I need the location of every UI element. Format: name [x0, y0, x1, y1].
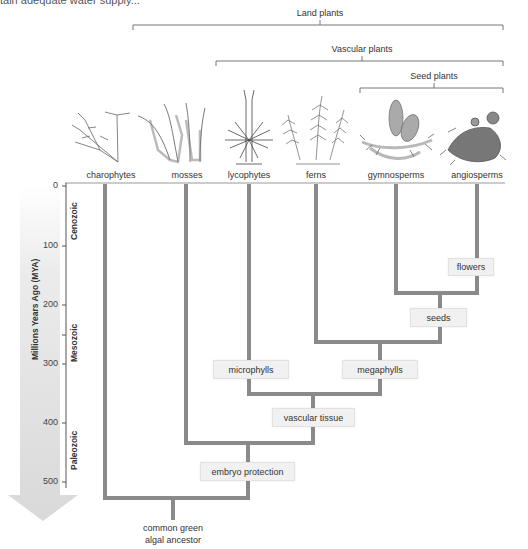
trait-box-megaphylls: megaphylls — [342, 360, 418, 379]
trait-label-flowers: flowers — [457, 262, 486, 272]
taxon-label-charophytes: charophytes — [86, 170, 135, 180]
taxon-label-lycophytes: lycophytes — [228, 170, 271, 180]
ancestor-label-line1: common green — [143, 522, 203, 534]
taxon-label-ferns: ferns — [306, 170, 326, 180]
trait-box-seeds: seeds — [410, 308, 467, 327]
charophyte-illustration — [72, 112, 130, 162]
trait-label-microphylls: microphylls — [228, 365, 273, 375]
tick-label-500: 500 — [28, 476, 58, 486]
taxon-label-mosses: mosses — [171, 170, 202, 180]
trait-box-vascular-tissue: vascular tissue — [272, 408, 355, 427]
trait-label-vascular-tissue: vascular tissue — [284, 413, 344, 423]
era-label-cenozoic: Cenozoic — [69, 202, 79, 240]
taxon-label-angiosperms: angiosperms — [451, 170, 503, 180]
moss-illustration — [138, 103, 205, 162]
taxon-label-gymnosperms: gymnosperms — [368, 170, 425, 180]
trait-label-embryo-protection: embryo protection — [211, 467, 283, 477]
bracket-label-seed-plants: Seed plants — [410, 71, 458, 81]
ancestor-label-line2: algal ancestor — [143, 534, 203, 546]
plant-illustrations — [72, 90, 506, 165]
era-label-mesozoic: Mesozoic — [69, 324, 79, 362]
fern-illustration — [282, 96, 348, 164]
trait-box-microphylls: microphylls — [213, 360, 289, 379]
trait-box-embryo-protection: embryo protection — [200, 462, 295, 481]
ancestor-label: common green algal ancestor — [143, 522, 203, 546]
tick-label-400: 400 — [28, 417, 58, 427]
tick-label-100: 100 — [28, 240, 58, 250]
tick-label-0: 0 — [28, 180, 58, 190]
clade-brackets — [133, 20, 503, 93]
era-label-paleozoic: Paleozoic — [69, 431, 79, 470]
trait-label-seeds: seeds — [426, 313, 450, 323]
trait-box-flowers: flowers — [448, 258, 494, 276]
angiosperm-illustration — [440, 112, 506, 165]
lycophyte-illustration — [225, 90, 273, 164]
bracket-label-vascular-plants: Vascular plants — [332, 44, 393, 54]
time-axis — [62, 183, 66, 488]
gymnosperm-illustration — [360, 100, 434, 158]
axis-title: Millions Years Ago (MYA) — [30, 259, 40, 360]
trait-label-megaphylls: megaphylls — [357, 365, 403, 375]
bracket-label-land-plants: Land plants — [297, 8, 344, 18]
